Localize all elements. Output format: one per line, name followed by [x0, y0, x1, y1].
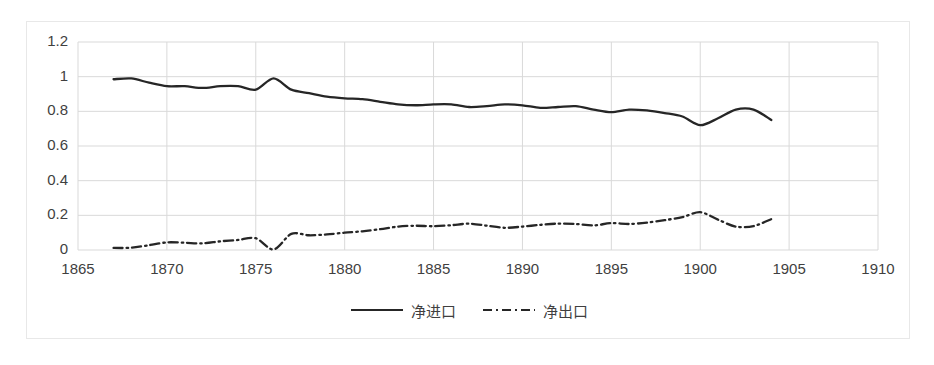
y-axis-tick-label: 1: [20, 67, 68, 84]
y-axis-tick-label: 0: [20, 240, 68, 257]
legend-label-net-import: 净进口: [411, 300, 456, 321]
y-axis-tick-label: 0.2: [20, 205, 68, 222]
series-line-net-export: [114, 212, 772, 249]
x-axis-tick-label: 1885: [404, 260, 464, 277]
x-axis-tick-label: 1895: [581, 260, 641, 277]
x-axis-tick-label: 1875: [226, 260, 286, 277]
x-axis-tick-label: 1865: [48, 260, 108, 277]
legend-item-net-import[interactable]: 净进口: [350, 300, 456, 321]
x-axis-tick-label: 1890: [492, 260, 552, 277]
series-layer: [114, 78, 772, 249]
x-axis-tick-label: 1900: [670, 260, 730, 277]
legend-item-net-export[interactable]: 净出口: [482, 300, 588, 321]
series-line-net-import: [114, 78, 772, 125]
chart-container: 1.210.80.60.40.20 1865187018751880188518…: [0, 0, 934, 365]
legend-line-dashdot-icon: [482, 304, 536, 316]
x-axis-tick-label: 1910: [848, 260, 908, 277]
chart-legend: 净进口 净出口: [350, 298, 588, 322]
x-axis-tick-label: 1880: [315, 260, 375, 277]
legend-line-solid-icon: [350, 304, 404, 316]
y-axis-tick-label: 0.4: [20, 171, 68, 188]
x-axis-tick-label: 1870: [137, 260, 197, 277]
y-axis-tick-label: 1.2: [20, 32, 68, 49]
y-axis-tick-label: 0.6: [20, 136, 68, 153]
y-axis-tick-label: 0.8: [20, 101, 68, 118]
x-axis-tick-label: 1905: [759, 260, 819, 277]
legend-label-net-export: 净出口: [543, 300, 588, 321]
gridlines: [78, 42, 878, 250]
